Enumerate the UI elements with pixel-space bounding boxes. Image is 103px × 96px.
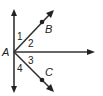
- point-c: [40, 78, 45, 83]
- angle-3-label: 3: [28, 55, 34, 66]
- angle-1-label: 1: [17, 31, 23, 42]
- label-a: A: [1, 46, 9, 58]
- arrow-down-icon: [11, 86, 17, 93]
- arrow-right-icon: [87, 49, 95, 55]
- label-c: C: [45, 66, 53, 78]
- angle-diagram: A B C 1 2 3 4: [0, 0, 103, 96]
- arrow-up-icon: [11, 9, 17, 16]
- point-b: [40, 20, 45, 25]
- label-b: B: [45, 23, 52, 35]
- angle-2-label: 2: [28, 38, 34, 49]
- angle-4-label: 4: [17, 63, 23, 74]
